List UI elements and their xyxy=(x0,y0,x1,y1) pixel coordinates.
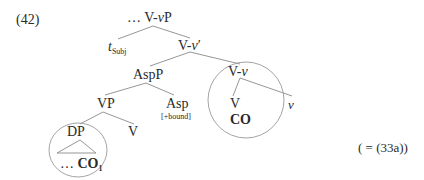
node-aspp: AspP xyxy=(133,68,163,82)
spec-subscript: Subj xyxy=(112,47,127,56)
node-little-v: v xyxy=(288,98,294,111)
node-asp: Asp xyxy=(166,97,189,111)
v-head-content: CO xyxy=(230,113,251,127)
node-vbar: V-v′ xyxy=(178,39,201,53)
node-vv: V-v xyxy=(228,65,248,79)
root-label-b: P xyxy=(164,10,172,25)
vbar-label-a: V- xyxy=(178,38,192,53)
vbar-label-b: ′ xyxy=(198,38,201,53)
asp-feature: [+bound] xyxy=(161,113,191,121)
node-root: … V-vP xyxy=(127,11,172,25)
node-v-head: V xyxy=(230,97,240,111)
node-spec-tsubj: tSubj xyxy=(108,40,127,56)
root-prefix: … xyxy=(127,10,141,25)
dp-content-subscript: 1 xyxy=(99,164,103,173)
cross-reference: ( = (33a)) xyxy=(358,141,408,154)
node-v-low: V xyxy=(128,125,138,139)
vv-label-a: V- xyxy=(228,64,242,79)
vv-label-v: v xyxy=(242,64,248,79)
node-dp: DP xyxy=(67,125,85,139)
root-label-a: V- xyxy=(144,10,158,25)
node-vp: VP xyxy=(97,97,115,111)
dp-content-label: CO xyxy=(78,156,99,171)
dp-content: … CO1 xyxy=(60,157,103,173)
example-number: (42) xyxy=(16,13,39,27)
dp-content-prefix: … xyxy=(60,156,74,171)
